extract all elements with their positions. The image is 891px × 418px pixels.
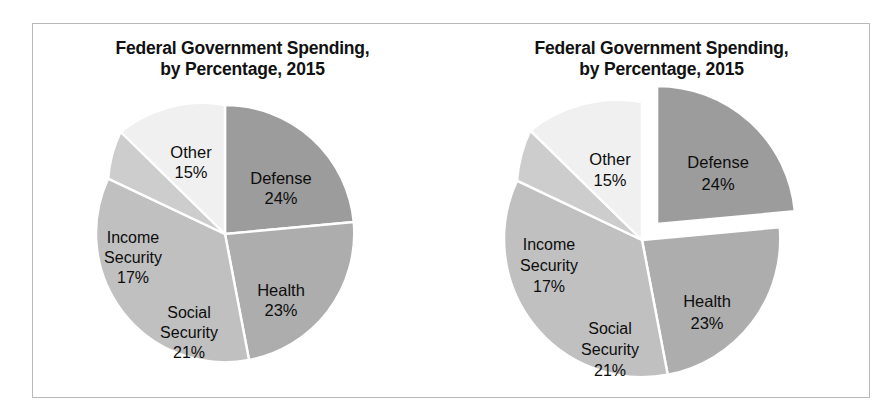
pie-chart-exploded: Defense 24% Health 23% Social Security 2… bbox=[492, 80, 792, 380]
pie-label-other-value: 15% bbox=[174, 163, 207, 181]
pie-label-health-name: Health bbox=[683, 292, 731, 310]
pie-label-other-name: Other bbox=[170, 143, 212, 161]
chart-title-right: Federal Government Spending, by Percenta… bbox=[452, 38, 871, 81]
pie-label-income-security-name-line2: Security bbox=[104, 249, 162, 266]
pie-label-social-security-name-line1: Social bbox=[167, 304, 211, 321]
chart-panel-standard-pie: Federal Government Spending, by Percenta… bbox=[33, 24, 452, 397]
chart-title-left: Federal Government Spending, by Percenta… bbox=[33, 38, 452, 81]
pie-label-income-security-value: 17% bbox=[533, 278, 565, 295]
pie-label-social-security-name-line1: Social bbox=[588, 320, 632, 337]
pie-label-health-value: 23% bbox=[264, 301, 297, 319]
pie-label-defense-name: Defense bbox=[687, 153, 748, 171]
pie-label-income-security-value: 17% bbox=[117, 269, 149, 286]
chart-title-left-line2: by Percentage, 2015 bbox=[33, 59, 452, 80]
chart-panel-exploded-pie: Federal Government Spending, by Percenta… bbox=[452, 24, 871, 397]
pie-label-other-name: Other bbox=[589, 150, 631, 168]
pie-slice-defense-exploded-group[interactable]: Defense 24% bbox=[657, 86, 795, 224]
pie-label-social-security-name-line2: Security bbox=[581, 341, 639, 358]
pie-chart-standard: Defense 24% Health 23% Social Security 2… bbox=[85, 86, 365, 376]
pie-label-defense-name: Defense bbox=[250, 169, 311, 187]
chart-title-right-line2: by Percentage, 2015 bbox=[452, 59, 871, 80]
pie-label-health-value: 23% bbox=[690, 314, 723, 332]
pie-label-defense-value: 24% bbox=[264, 189, 297, 207]
pie-label-social-security-value: 21% bbox=[173, 344, 205, 361]
pie-label-social-security-value: 21% bbox=[594, 362, 626, 379]
figure-frame: Federal Government Spending, by Percenta… bbox=[32, 23, 870, 398]
pie-label-defense-value: 24% bbox=[702, 175, 735, 193]
pie-label-income-security-name-line1: Income bbox=[107, 229, 160, 246]
chart-title-right-line1: Federal Government Spending, bbox=[452, 38, 871, 59]
pie-svg-exploded: Defense 24% Health 23% Social Security 2… bbox=[492, 80, 792, 380]
pie-label-other-value: 15% bbox=[593, 171, 626, 189]
pie-svg-standard: Defense 24% Health 23% Social Security 2… bbox=[85, 86, 365, 376]
pie-label-health-name: Health bbox=[257, 281, 305, 299]
pie-label-income-security-name-line2: Security bbox=[520, 257, 578, 274]
pie-label-social-security-name-line2: Security bbox=[160, 324, 218, 341]
chart-title-left-line1: Federal Government Spending, bbox=[33, 38, 452, 59]
pie-label-income-security-name-line1: Income bbox=[523, 236, 576, 253]
